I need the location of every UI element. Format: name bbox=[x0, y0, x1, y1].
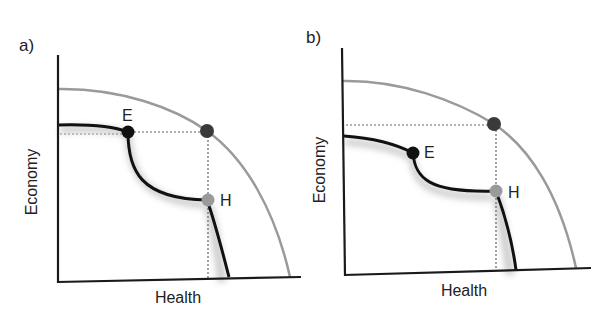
panel-a-curve-shadow bbox=[60, 129, 222, 282]
panel-a-point-h bbox=[202, 194, 215, 207]
panel-a-label-e: E bbox=[122, 107, 133, 124]
panel-a-outer-frontier bbox=[58, 89, 290, 277]
panel-b-point-e bbox=[407, 147, 420, 160]
panel-b-x-axis bbox=[344, 268, 591, 275]
panel-b-label-e: E bbox=[424, 144, 435, 161]
panel-a-y-axis-label: Economy bbox=[23, 149, 40, 216]
panel-b-point-h bbox=[490, 185, 503, 198]
panel-a-point-e bbox=[122, 126, 135, 139]
production-possibility-figure: a) E H Economy bbox=[0, 0, 603, 324]
panel-a-x-axis-label: Health bbox=[155, 289, 201, 306]
panel-a: a) E H Economy bbox=[19, 36, 301, 306]
panel-b-frontier-point bbox=[487, 117, 501, 131]
panel-b: b) E H Economy He bbox=[306, 28, 591, 299]
panel-b-y-axis-label: Economy bbox=[311, 137, 328, 204]
panel-a-x-axis bbox=[57, 277, 301, 282]
panel-a-label-h: H bbox=[220, 192, 232, 209]
panel-b-label: b) bbox=[306, 28, 321, 47]
panel-a-label: a) bbox=[19, 36, 34, 55]
panel-b-outer-frontier bbox=[343, 81, 576, 268]
panel-b-label-h: H bbox=[508, 184, 520, 201]
panel-a-frontier-point bbox=[200, 124, 214, 138]
panel-b-x-axis-label: Health bbox=[441, 282, 487, 299]
panel-b-curve-shadow bbox=[345, 142, 510, 275]
